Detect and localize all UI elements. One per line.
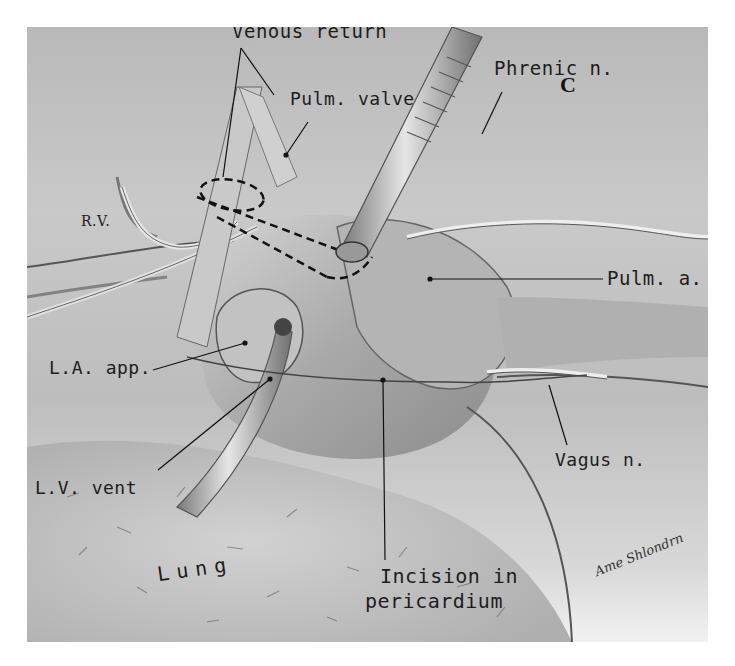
label-incision-line2: pericardium (365, 589, 503, 613)
surgical-illustration: C Venous return Pulm. valve Phrenic n. R… (27, 27, 708, 642)
label-incision-line1: Incision in (380, 564, 518, 588)
label-phrenic-nerve: Phrenic n. (494, 57, 613, 79)
label-venous-return: Venous return (232, 27, 387, 42)
label-pulmonary-artery: Pulm. a. (607, 267, 703, 289)
label-pulm-valve: Pulm. valve (290, 88, 415, 109)
anatomy-drawing (27, 27, 708, 642)
label-left-atrial-appendage: L.A. app. (49, 357, 151, 378)
label-lv-vent: L.V. vent (35, 477, 137, 498)
label-vagus-nerve: Vagus n. (555, 449, 646, 470)
label-right-ventricle: R.V. (81, 213, 110, 229)
